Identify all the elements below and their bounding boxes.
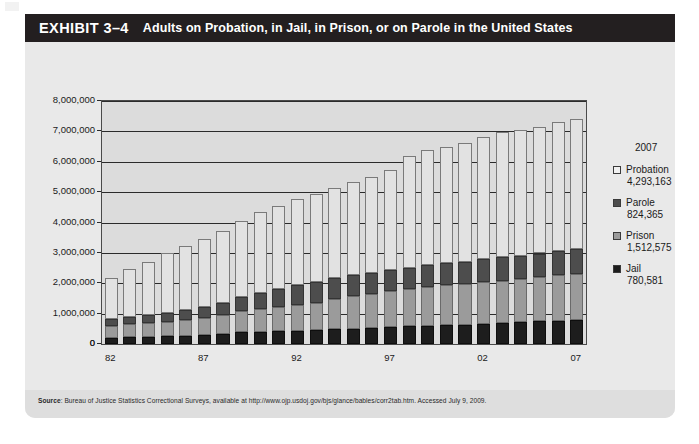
- bar-segment-prison: [198, 318, 211, 335]
- legend-label: Prison: [626, 230, 654, 241]
- bar-segment-parole: [198, 307, 211, 318]
- bar-segment-prison: [403, 289, 416, 326]
- y-axis-tick-label: 2,000,000: [33, 276, 95, 287]
- bar-segment-jail: [421, 326, 434, 344]
- bar-segment-parole: [440, 263, 453, 285]
- bar-segment-parole: [235, 297, 248, 311]
- bar-segment-prison: [440, 285, 453, 325]
- bar-segment-probation: [216, 231, 229, 303]
- bar-segment-prison: [570, 274, 583, 320]
- chart-bar: [477, 137, 490, 344]
- y-axis-tick-mark: [97, 343, 101, 344]
- bar-segment-parole: [123, 317, 136, 324]
- bar-segment-probation: [403, 156, 416, 267]
- chart-bar: [347, 182, 360, 344]
- bar-segment-jail: [235, 332, 248, 344]
- bar-segment-jail: [514, 322, 527, 344]
- y-axis-tick-label: 8,000,000: [33, 94, 95, 105]
- chart-bar: [235, 221, 248, 344]
- bar-segment-jail: [533, 321, 546, 344]
- bar-segment-probation: [272, 206, 285, 289]
- y-axis-tick-label: 4,000,000: [33, 216, 95, 227]
- y-axis-tick-mark: [97, 282, 101, 283]
- x-axis-tick-label: 92: [276, 352, 316, 363]
- x-axis-tick-label: 02: [463, 352, 503, 363]
- x-axis-tick-label: 87: [183, 352, 223, 363]
- chart-bar: [328, 188, 341, 344]
- bar-segment-probation: [105, 278, 118, 319]
- legend-item-header: Prison: [613, 230, 672, 241]
- source-band: Source: Bureau of Justice Statistics Cor…: [25, 390, 675, 418]
- y-axis-tick-label: 5,000,000: [33, 185, 95, 196]
- y-axis-tick-mark: [97, 191, 101, 192]
- bar-segment-parole: [347, 275, 360, 296]
- y-axis-tick-mark: [97, 313, 101, 314]
- exhibit-figure: EXHIBIT 3–4 Adults on Probation, in Jail…: [0, 0, 699, 444]
- bar-segment-prison: [272, 307, 285, 331]
- exhibit-number: EXHIBIT 3–4: [39, 20, 129, 36]
- bar-segment-parole: [291, 285, 304, 305]
- bar-segment-probation: [347, 182, 360, 275]
- bar-segment-jail: [365, 328, 378, 344]
- chart-bar: [421, 150, 434, 344]
- bar-segment-parole: [533, 254, 546, 278]
- exhibit-title: Adults on Probation, in Jail, in Prison,…: [143, 21, 573, 35]
- chart-bar: [403, 156, 416, 344]
- bar-segment-prison: [179, 320, 192, 336]
- bar-segment-prison: [123, 324, 136, 337]
- bar-segment-probation: [291, 199, 304, 284]
- bar-segment-jail: [496, 323, 509, 344]
- bar-segment-probation: [235, 221, 248, 298]
- bar-segment-jail: [216, 334, 229, 344]
- bar-segment-jail: [570, 320, 583, 344]
- legend-item-parole: Parole824,365: [613, 197, 672, 220]
- x-axis-tick-label: 82: [90, 352, 130, 363]
- bar-segment-probation: [123, 269, 136, 317]
- bar-segment-jail: [328, 329, 341, 344]
- bar-segment-probation: [142, 262, 155, 315]
- bar-segment-prison: [142, 323, 155, 336]
- black-swatch-icon: [613, 265, 621, 273]
- chart-bar: [458, 143, 471, 344]
- chart-bar: [440, 147, 453, 344]
- bar-segment-jail: [291, 331, 304, 344]
- bar-segment-prison: [421, 287, 434, 326]
- bar-segment-probation: [254, 212, 267, 293]
- chart-legend: 2007 Probation4,293,163Parole824,365Pris…: [613, 142, 672, 296]
- x-axis-tick-label: 97: [370, 352, 410, 363]
- bar-segment-prison: [514, 279, 527, 322]
- bar-segment-probation: [421, 150, 434, 265]
- exhibit-header-band: EXHIBIT 3–4 Adults on Probation, in Jail…: [25, 14, 675, 42]
- bar-segment-parole: [421, 265, 434, 287]
- y-axis-tick-mark: [97, 100, 101, 101]
- bar-segment-parole: [384, 270, 397, 291]
- legend-year: 2007: [613, 142, 672, 153]
- bar-segment-prison: [533, 277, 546, 321]
- bar-segment-jail: [458, 325, 471, 344]
- bar-segment-jail: [477, 324, 490, 344]
- bar-segment-prison: [216, 315, 229, 333]
- bar-segment-prison: [552, 275, 565, 320]
- bar-segment-parole: [403, 268, 416, 289]
- bar-segment-probation: [533, 127, 546, 253]
- bar-segment-prison: [496, 281, 509, 323]
- bar-segment-probation: [328, 188, 341, 279]
- bar-segment-jail: [384, 327, 397, 344]
- bar-segment-jail: [105, 338, 118, 344]
- bar-segment-parole: [570, 249, 583, 274]
- chart-bar: [496, 132, 509, 344]
- legend-value: 4,293,163: [613, 176, 672, 187]
- bar-segment-prison: [328, 299, 341, 329]
- legend-label: Jail: [626, 263, 641, 274]
- bar-segment-probation: [365, 177, 378, 273]
- chart-bar: [310, 194, 323, 344]
- bar-segment-parole: [477, 259, 490, 282]
- bar-segment-jail: [254, 332, 267, 344]
- bar-segment-prison: [161, 322, 174, 337]
- y-axis-tick-label: 1,000,000: [33, 307, 95, 318]
- bar-segment-probation: [440, 147, 453, 263]
- bar-segment-prison: [477, 282, 490, 324]
- y-axis-tick-label: 7,000,000: [33, 124, 95, 135]
- legend-item-header: Parole: [613, 197, 672, 208]
- y-axis-tick-mark: [97, 161, 101, 162]
